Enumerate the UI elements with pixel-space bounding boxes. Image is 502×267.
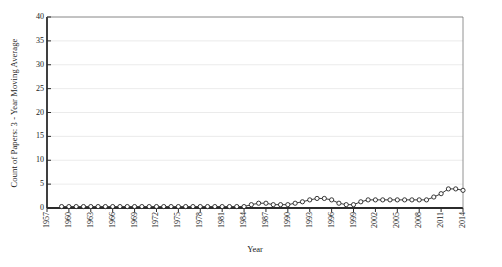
x-tick-label: 1978 xyxy=(195,212,205,228)
x-tick-label: 1957 xyxy=(42,212,52,228)
x-axis-tick-labels: 1957196019631966196919721975197819811984… xyxy=(0,0,502,267)
x-tick-label: 1984 xyxy=(239,212,249,228)
x-tick-label: 2008 xyxy=(414,212,424,228)
x-tick-label: 1975 xyxy=(173,212,183,228)
x-tick-label: 1999 xyxy=(349,212,359,228)
x-tick-label: 1963 xyxy=(86,212,96,228)
x-tick-label: 2011 xyxy=(436,212,446,228)
x-axis-title: Year xyxy=(47,244,463,254)
x-tick-label: 2014 xyxy=(458,212,468,228)
x-tick-label: 1987 xyxy=(261,212,271,228)
x-tick-label: 1969 xyxy=(130,212,140,228)
x-tick-label: 2002 xyxy=(370,212,380,228)
chart-container: Count of Papers: 3 - Year Moving Average… xyxy=(0,0,502,267)
x-tick-label: 1993 xyxy=(305,212,315,228)
x-tick-label: 2005 xyxy=(392,212,402,228)
x-tick-label: 1960 xyxy=(64,212,74,228)
x-tick-label: 1996 xyxy=(327,212,337,228)
x-tick-label: 1981 xyxy=(217,212,227,228)
x-tick-label: 1972 xyxy=(151,212,161,228)
x-tick-label: 1990 xyxy=(283,212,293,228)
x-tick-label: 1966 xyxy=(108,212,118,228)
